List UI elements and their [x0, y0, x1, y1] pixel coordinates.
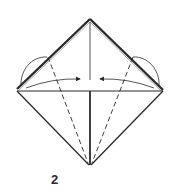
bottom-right-edge — [91, 91, 163, 165]
fold-arrow-right-icon — [100, 79, 154, 88]
valley-fold-right — [92, 57, 133, 163]
bottom-left-edge — [17, 91, 89, 165]
fold-arrow-left-icon — [26, 79, 80, 88]
step-number: 2 — [51, 172, 58, 187]
valley-fold-left — [48, 57, 88, 163]
origami-diagram — [0, 0, 178, 193]
